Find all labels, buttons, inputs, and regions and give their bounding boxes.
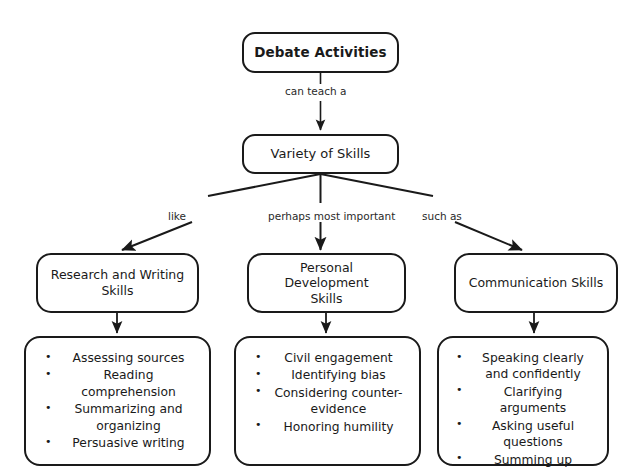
bullet-item: Identifying bias: [268, 367, 409, 383]
communication-bullet-list: Speaking clearly and confidentlyClarifyi…: [445, 350, 601, 468]
connector-variety-fan-right: [321, 174, 434, 196]
connector-branch-communication: [455, 222, 522, 250]
connector-branch-research: [122, 222, 192, 250]
connector-variety-fan-left: [208, 174, 321, 196]
node-variety-of-skills-label: Variety of Skills: [263, 146, 379, 162]
node-variety-of-skills[interactable]: Variety of Skills: [242, 134, 399, 174]
node-personal-development-skills[interactable]: Personal Development Skills: [247, 253, 406, 313]
bullet-item: Summarizing and organizing: [58, 401, 199, 434]
node-personal-development-skills-label: Personal Development Skills: [249, 260, 404, 307]
node-communication-skills-label: Communication Skills: [461, 275, 612, 291]
bullet-item: Civil engagement: [268, 350, 409, 366]
node-research-and-writing-skills-label: Research and Writing Skills: [43, 267, 192, 298]
edge-label-such-as: such as: [422, 210, 462, 222]
node-research-and-writing-skills[interactable]: Research and Writing Skills: [36, 253, 199, 313]
node-personal-development-details[interactable]: Civil engagementIdentifying biasConsider…: [234, 336, 421, 466]
bullet-item: Persuasive writing: [58, 435, 199, 451]
bullet-item: Assessing sources: [58, 350, 199, 366]
node-debate-activities[interactable]: Debate Activities: [242, 32, 399, 73]
edge-label-like: like: [168, 210, 186, 222]
bullet-item: Considering counter-evidence: [268, 385, 409, 418]
bullet-item: Clarifying arguments: [469, 384, 597, 417]
concept-map-diagram: Debate Activities Variety of Skills Rese…: [0, 0, 644, 476]
node-research-and-writing-details[interactable]: Assessing sourcesReading comprehensionSu…: [24, 336, 211, 466]
edge-label-perhaps-most-important: perhaps most important: [268, 210, 395, 222]
bullet-item: Honoring humility: [268, 419, 409, 435]
personal-development-bullet-list: Civil engagementIdentifying biasConsider…: [242, 350, 413, 435]
node-communication-skills[interactable]: Communication Skills: [454, 253, 618, 313]
node-debate-activities-label: Debate Activities: [246, 44, 394, 61]
bullet-item: Summing up: [469, 452, 597, 468]
bullet-item: Asking useful questions: [469, 418, 597, 451]
node-communication-details[interactable]: Speaking clearly and confidentlyClarifyi…: [437, 336, 609, 466]
research-and-writing-bullet-list: Assessing sourcesReading comprehensionSu…: [32, 350, 203, 452]
bullet-item: Reading comprehension: [58, 367, 199, 400]
edge-label-can-teach-a: can teach a: [285, 85, 346, 97]
bullet-item: Speaking clearly and confidently: [469, 350, 597, 383]
